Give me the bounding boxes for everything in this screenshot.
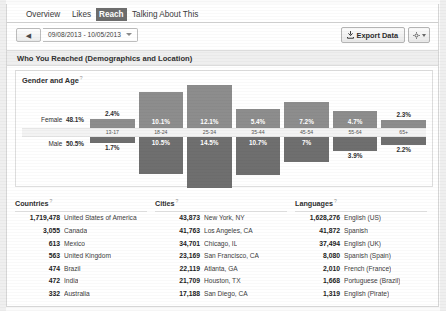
caret-left-icon: ◀ <box>26 32 31 39</box>
list-item-label: Los Angeles, CA <box>204 225 253 238</box>
languages-header: Languages? <box>295 198 427 212</box>
help-icon[interactable]: ? <box>334 198 337 204</box>
chevron-down-icon <box>126 33 132 36</box>
tab-bar: Overview Likes Reach Talking About This <box>7 5 438 23</box>
tab-likes[interactable]: Likes <box>69 8 94 21</box>
bar-value-female-25-34: 12.1% <box>187 118 232 125</box>
list-item[interactable]: 8,080Spanish (Spain) <box>295 250 427 263</box>
bar-male-65+[interactable] <box>381 137 426 145</box>
list-item-value: 563 <box>15 250 60 263</box>
tab-reach[interactable]: Reach <box>96 8 127 21</box>
gender-and-age-label: Gender and Age <box>22 76 79 85</box>
bar-value-male-45-54: 7% <box>284 139 329 146</box>
cities-header: Cities? <box>155 198 287 212</box>
list-item-label: Spanish <box>344 225 368 238</box>
list-item-value: 23,169 <box>155 250 200 263</box>
list-item-value: 332 <box>15 288 60 301</box>
list-item[interactable]: 332Australia <box>15 288 147 301</box>
male-row-label-text: Male <box>48 140 62 147</box>
bar-female-13-17[interactable] <box>90 119 135 128</box>
countries-header-label: Countries <box>15 199 49 208</box>
list-item-label: Mexico <box>64 238 85 251</box>
list-item[interactable]: 41,872Spanish <box>295 225 427 238</box>
list-item-value: 1,668 <box>295 275 340 288</box>
list-item[interactable]: 1,319English (Pirate) <box>295 288 427 301</box>
list-item-label: United States of America <box>64 212 137 225</box>
export-data-button[interactable]: Export Data <box>341 27 405 43</box>
bar-female-65+[interactable] <box>381 120 426 128</box>
list-item-label: English (US) <box>344 212 381 225</box>
list-item-label: Houston, TX <box>204 275 241 288</box>
date-range-value: 09/08/2013 - 10/05/2013 <box>48 31 121 38</box>
list-item-value: 8,080 <box>295 250 340 263</box>
list-item-label: Spanish (Spain) <box>344 250 391 263</box>
bar-value-male-55-64: 3.9% <box>333 152 378 159</box>
female-row-label-percent: 48.1% <box>66 116 84 123</box>
list-item[interactable]: 1,628,276English (US) <box>295 212 427 225</box>
help-icon[interactable]: ? <box>50 198 53 204</box>
bar-male-13-17[interactable] <box>90 137 135 143</box>
list-item[interactable]: 1,719,478United States of America <box>15 212 147 225</box>
list-item-value: 1,319 <box>295 288 340 301</box>
download-icon <box>347 31 354 39</box>
languages-list: 1,628,276English (US)41,872Spanish37,494… <box>295 212 427 300</box>
age-label-35-44: 35-44 <box>236 128 281 137</box>
list-item[interactable]: 563United Kingdom <box>15 250 147 263</box>
age-group-column: 2.4%1.7%13-17 <box>90 87 135 183</box>
bar-male-55-64[interactable] <box>333 137 378 151</box>
list-item-label: San Diego, CA <box>204 288 248 301</box>
list-item-value: 43,873 <box>155 212 200 225</box>
list-item[interactable]: 2,010French (France) <box>295 263 427 276</box>
female-row-label-text: Female <box>41 116 62 123</box>
list-item-label: New York, NY <box>204 212 245 225</box>
list-item[interactable]: 3,055Canada <box>15 225 147 238</box>
list-item[interactable]: 43,873New York, NY <box>155 212 287 225</box>
list-item[interactable]: 1,668Portuguese (Brazil) <box>295 275 427 288</box>
list-item[interactable]: 21,709Houston, TX <box>155 275 287 288</box>
age-group-column: 4.7%3.9%55-64 <box>333 87 378 183</box>
tab-overview[interactable]: Overview <box>23 8 63 21</box>
tab-talking-about-this[interactable]: Talking About This <box>129 8 201 21</box>
languages-column: Languages? 1,628,276English (US)41,872Sp… <box>295 198 427 301</box>
female-row-label: Female 48.1% <box>22 116 84 123</box>
age-label-18-24: 18-24 <box>139 128 184 137</box>
toolbar: ◀ 09/08/2013 - 10/05/2013 Export Data <box>7 24 438 48</box>
chevron-down-icon <box>422 34 426 37</box>
gender-age-bar-chart: Female 48.1%Male 50.5%2.4%1.7%13-1710.1%… <box>22 87 426 183</box>
list-item[interactable]: 613Mexico <box>15 238 147 251</box>
bar-value-female-18-24: 10.1% <box>139 118 184 125</box>
list-item[interactable]: 34,701Chicago, IL <box>155 238 287 251</box>
age-group-column: 2.3%2.2%65+ <box>381 87 426 183</box>
list-item[interactable]: 23,169San Francisco, CA <box>155 250 287 263</box>
list-item-value: 41,763 <box>155 225 200 238</box>
list-item-label: Canada <box>64 225 87 238</box>
list-item[interactable]: 472India <box>15 275 147 288</box>
age-group-column: 10.1%10.5%18-24 <box>139 87 184 183</box>
bar-value-male-13-17: 1.7% <box>90 144 135 151</box>
bar-value-female-65+: 2.3% <box>381 111 426 118</box>
list-item-value: 472 <box>15 275 60 288</box>
list-item[interactable]: 41,763Los Angeles, CA <box>155 225 287 238</box>
list-item[interactable]: 37,494English (UK) <box>295 238 427 251</box>
gender-and-age-card: Gender and Age? Female 48.1%Male 50.5%2.… <box>15 70 433 187</box>
previous-period-button[interactable]: ◀ <box>16 28 41 42</box>
cities-list: 43,873New York, NY41,763Los Angeles, CA3… <box>155 212 287 300</box>
list-item[interactable]: 474Brazil <box>15 263 147 276</box>
settings-menu-button[interactable] <box>408 27 430 43</box>
date-range-selector[interactable]: 09/08/2013 - 10/05/2013 <box>43 28 138 42</box>
list-item[interactable]: 22,119Atlanta, GA <box>155 263 287 276</box>
age-label-13-17: 13-17 <box>90 128 135 137</box>
page-right-edge <box>440 0 446 311</box>
languages-header-label: Languages <box>295 199 333 208</box>
cities-column: Cities? 43,873New York, NY41,763Los Ange… <box>155 198 287 301</box>
help-icon[interactable]: ? <box>176 198 179 204</box>
bar-value-female-55-64: 4.7% <box>333 118 378 125</box>
list-item-label: Brazil <box>64 263 81 276</box>
page-root: Overview Likes Reach Talking About This … <box>0 0 446 311</box>
list-item-value: 474 <box>15 263 60 276</box>
list-item[interactable]: 17,188San Diego, CA <box>155 288 287 301</box>
list-item-value: 22,119 <box>155 263 200 276</box>
list-item-value: 613 <box>15 238 60 251</box>
list-item-label: Chicago, IL <box>204 238 237 251</box>
help-icon[interactable]: ? <box>80 75 83 81</box>
